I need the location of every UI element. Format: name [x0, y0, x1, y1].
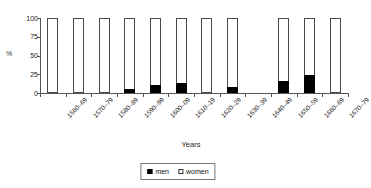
bar-segment-men	[124, 89, 135, 93]
bar-group	[304, 18, 315, 93]
legend-item: women	[178, 168, 209, 175]
bar-group	[150, 18, 161, 93]
y-axis-title: %	[6, 50, 12, 57]
bar-group	[330, 18, 341, 93]
bar-segment-women	[99, 18, 110, 93]
white-square-icon	[178, 169, 183, 174]
x-tick-label: 1650–59	[296, 96, 320, 120]
x-tick-label: 1570–79	[91, 96, 115, 120]
x-tick-label: 1670–79	[348, 96, 371, 120]
x-tick-label: 1610–19	[194, 96, 218, 120]
bar-segment-women	[227, 18, 238, 93]
y-tick-mark	[37, 74, 40, 75]
x-axis-title-text: Years	[182, 140, 201, 149]
bar-segment-men	[278, 81, 289, 93]
bar-segment-women	[124, 18, 135, 93]
bar-group	[47, 18, 58, 93]
x-axis-title: Years	[0, 140, 358, 149]
x-tick-label: 1580–89	[117, 96, 141, 120]
bar-segment-women	[150, 18, 161, 93]
bar-segment-men	[150, 85, 161, 93]
x-tick-label: 1630–39	[245, 96, 269, 120]
bar-group	[124, 18, 135, 93]
x-axis-tick-labels: 1560–691570–791580–891590–991600–091610–…	[40, 96, 350, 138]
x-tick-label: 1640–49	[271, 96, 295, 120]
bar-segment-women	[47, 18, 58, 93]
bar-segment-women	[73, 18, 84, 93]
bar-segment-women	[201, 18, 212, 93]
bar-group	[201, 18, 212, 93]
bar-group	[73, 18, 84, 93]
x-tick-label: 1590–99	[142, 96, 166, 120]
bar-segment-men	[227, 87, 238, 93]
bar-group	[176, 18, 187, 93]
y-tick-mark	[37, 56, 40, 57]
plot-area	[40, 18, 348, 93]
bar-group	[99, 18, 110, 93]
legend-label: men	[155, 168, 169, 175]
x-tick-label: 1660–69	[322, 96, 346, 120]
x-tick-label: 1560–69	[65, 96, 89, 120]
bar-segment-women	[330, 18, 341, 93]
bar-group	[278, 18, 289, 93]
y-tick-mark	[37, 18, 40, 19]
chart-legend: menwomen	[140, 163, 215, 180]
x-tick-label: 1600–09	[168, 96, 192, 120]
bar-segment-men	[304, 75, 315, 93]
y-axis-tick-labels: 1007550250	[14, 12, 38, 96]
x-tick-label: 1620–29	[219, 96, 243, 120]
y-axis-line	[40, 18, 41, 94]
legend-item: men	[147, 168, 169, 175]
black-square-icon	[147, 169, 152, 174]
bar-segment-men	[176, 83, 187, 94]
legend-label: women	[186, 168, 209, 175]
y-tick-mark	[37, 37, 40, 38]
bar-group	[227, 18, 238, 93]
